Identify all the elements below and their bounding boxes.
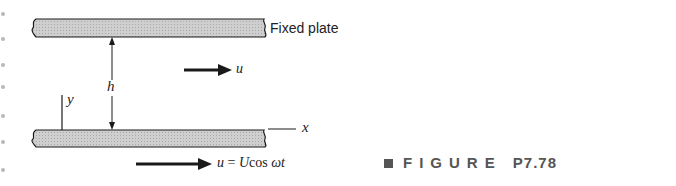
plate-velocity-arrow-icon [136,158,212,170]
y-axis-label: y [67,91,74,108]
equation-function: cos [249,155,271,170]
figure-caption: FIGURE P7.78 [403,154,557,171]
equation-equals: = [224,155,239,170]
fixed-plate-top [32,19,266,37]
velocity-arrow-icon [184,64,232,76]
figure-caption-number: P7.78 [513,154,557,171]
caption-square-marker [384,159,393,168]
oscillating-plate-bottom [32,130,266,147]
x-axis-label: x [302,119,309,136]
fixed-plate-label: Fixed plate [270,20,338,36]
plate-velocity-equation: u = Ucos ωt [217,155,285,171]
gap-label: h [107,78,115,95]
velocity-label: u [236,61,243,77]
equation-amplitude: U [239,155,249,170]
equation-lhs: u [217,155,224,170]
figure-caption-word: FIGURE [403,154,502,171]
equation-argument: ωt [271,155,285,170]
